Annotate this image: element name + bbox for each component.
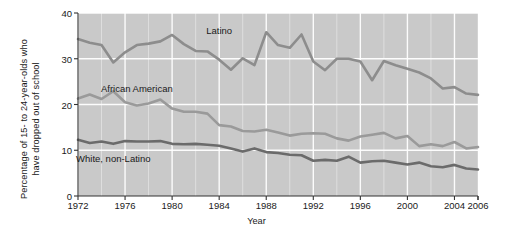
series-label: African American bbox=[101, 83, 173, 94]
y-tick-label: 40 bbox=[46, 8, 72, 19]
x-tick-label: 1980 bbox=[162, 200, 183, 211]
x-tick-label: 1984 bbox=[209, 200, 230, 211]
x-tick-label: 1992 bbox=[303, 200, 324, 211]
y-tick-label: 30 bbox=[46, 53, 72, 64]
x-axis-title: Year bbox=[0, 216, 513, 226]
x-tick-label: 2004 bbox=[444, 200, 465, 211]
x-tick-label: 1972 bbox=[67, 200, 88, 211]
x-tick-label: 2000 bbox=[397, 200, 418, 211]
y-tick-label: 20 bbox=[46, 99, 72, 110]
x-tick-label: 1976 bbox=[114, 200, 135, 211]
x-tick-label: 1996 bbox=[350, 200, 371, 211]
x-tick-label: 1988 bbox=[256, 200, 277, 211]
y-tick-label: 10 bbox=[46, 145, 72, 156]
x-tick-label: 2006 bbox=[467, 200, 488, 211]
chart-container: Percentage of 15- to 24-year-olds who ha… bbox=[0, 0, 513, 238]
series-label: Latino bbox=[206, 25, 232, 36]
series-label: White, non-Latino bbox=[76, 153, 150, 164]
